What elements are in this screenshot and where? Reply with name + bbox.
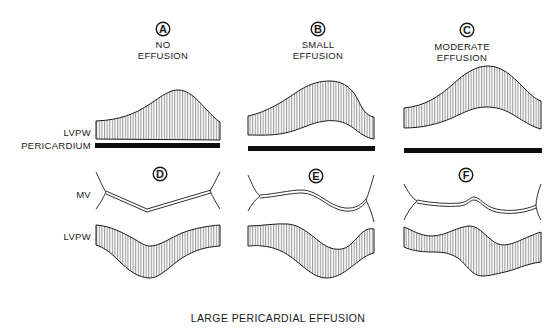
panel-c-title-line2: EFFUSION: [437, 52, 487, 63]
panel-b: B SMALL EFFUSION: [248, 22, 375, 151]
panel-a-title-line2: EFFUSION: [138, 50, 188, 61]
panel-c: C MODERATE EFFUSION: [404, 23, 542, 153]
panel-d-letter: D: [156, 168, 164, 180]
panel-a: A NO EFFUSION: [95, 22, 220, 148]
panel-c-lvpw-wall: [404, 66, 541, 129]
panel-f-mitral-valve: [404, 184, 541, 220]
panel-a-pericardium: [95, 143, 220, 148]
panel-f-lvpw-wall: [404, 226, 541, 276]
panel-f: F: [404, 168, 541, 276]
panel-b-pericardium: [248, 146, 375, 151]
panel-e-letter: E: [312, 170, 319, 182]
panel-b-label: B: [311, 22, 325, 36]
panel-c-label: C: [460, 23, 474, 37]
panel-b-letter: B: [314, 23, 322, 35]
panel-f-letter: F: [463, 169, 470, 181]
panel-d: D: [96, 167, 220, 278]
panel-b-lvpw-wall: [248, 81, 374, 139]
panel-a-title-line1: NO: [156, 39, 171, 50]
panel-e-lvpw-wall: [248, 224, 374, 278]
pericardium-label: PERICARDIUM: [21, 140, 91, 151]
panel-c-title-line1: MODERATE: [434, 41, 490, 52]
panel-a-lvpw-wall: [96, 90, 220, 140]
panel-f-label: F: [459, 168, 473, 182]
mv-label: MV: [76, 189, 91, 200]
lvpw-bottom-label: LVPW: [64, 231, 91, 242]
panel-c-letter: C: [463, 24, 471, 36]
panel-e-mitral-valve: [248, 175, 374, 222]
echocardiogram-diagram: A NO EFFUSION B SMALL EFFUSION C MODERAT…: [0, 0, 560, 336]
panel-b-title-line1: SMALL: [302, 39, 335, 50]
panel-d-lvpw-wall: [96, 225, 220, 278]
panel-a-label: A: [156, 22, 170, 36]
panel-b-title-line2: EFFUSION: [293, 50, 343, 61]
panel-d-label: D: [153, 167, 167, 181]
figure-caption: LARGE PERICARDIAL EFFUSION: [191, 312, 366, 324]
panel-e: E: [248, 169, 374, 278]
panel-c-pericardium: [404, 148, 542, 153]
panel-a-letter: A: [159, 23, 167, 35]
lvpw-top-label: LVPW: [64, 127, 91, 138]
panel-e-label: E: [309, 169, 323, 183]
